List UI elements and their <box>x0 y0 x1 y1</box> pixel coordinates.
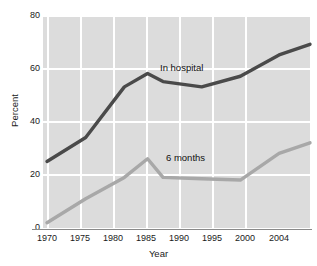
x-tick-label: 2000 <box>228 233 262 243</box>
y-tick-label: 0 <box>16 223 40 232</box>
x-tick-label: 1985 <box>129 233 163 243</box>
line-chart: In hospital 6 months 80 60 40 20 0 1970 … <box>0 0 317 266</box>
y-tick-label: 40 <box>16 117 40 126</box>
y-tick-label: 80 <box>16 11 40 20</box>
x-tick-label: 1980 <box>96 233 130 243</box>
x-tick-label: 1970 <box>30 233 64 243</box>
x-tick-label: 1975 <box>63 233 97 243</box>
x-tick-label: 1995 <box>195 233 229 243</box>
y-tick-label: 20 <box>16 170 40 179</box>
x-axis-title: Year <box>0 248 317 259</box>
x-tick-label: 2004 <box>262 233 296 243</box>
y-tick-label: 60 <box>16 64 40 73</box>
series-annotation-6-months: 6 months <box>166 152 205 163</box>
x-tick-label: 1990 <box>162 233 196 243</box>
series-annotation-in-hospital: In hospital <box>160 62 203 73</box>
x-axis-line <box>32 229 312 230</box>
y-axis-title: Percent <box>9 81 20 141</box>
series-layer <box>0 0 317 266</box>
